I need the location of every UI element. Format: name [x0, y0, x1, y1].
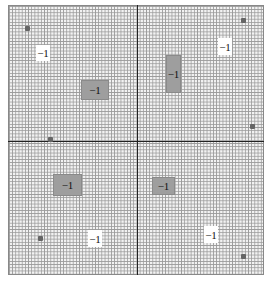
value-label-box: −1 — [218, 38, 232, 55]
point-marker — [241, 254, 246, 259]
value-label-box: −1 — [36, 45, 50, 61]
point-marker — [25, 26, 30, 31]
value-label-box: −1 — [166, 55, 181, 93]
value-label-box: −1 — [81, 80, 109, 100]
horizontal-axis — [8, 141, 264, 142]
point-marker — [38, 236, 43, 241]
point-marker — [48, 137, 53, 142]
value-label-box: −1 — [53, 174, 82, 196]
value-label-box: −1 — [152, 177, 175, 195]
value-label-box: −1 — [204, 226, 218, 243]
point-marker — [250, 124, 255, 129]
vertical-axis — [137, 5, 138, 275]
point-marker — [241, 18, 246, 23]
value-label-box: −1 — [88, 230, 102, 247]
